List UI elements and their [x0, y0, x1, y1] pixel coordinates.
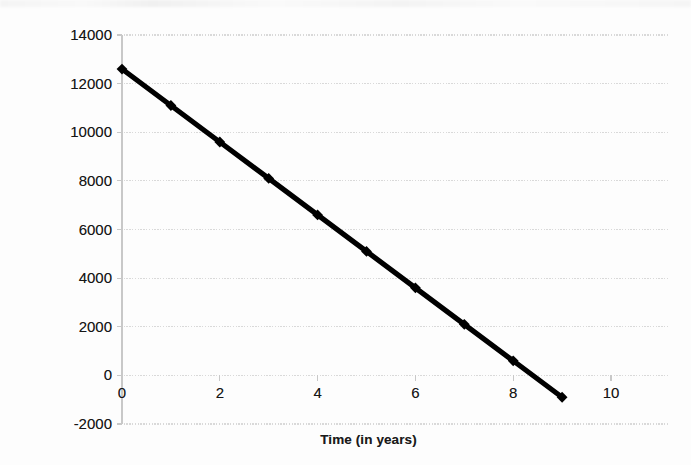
x-tick-label: 0	[102, 384, 142, 401]
y-tick-label: 2000	[38, 318, 112, 335]
x-tick-label: 4	[298, 384, 338, 401]
y-tick-label: 8000	[38, 172, 112, 189]
y-tick-label: -2000	[38, 415, 112, 432]
data-series-line	[122, 69, 562, 397]
chart-figure: Value of Car Time (in years) -2000020004…	[0, 0, 691, 465]
x-tick-label: 10	[591, 384, 631, 401]
y-tick-label: 4000	[38, 269, 112, 286]
x-axis-title: Time (in years)	[0, 432, 691, 447]
y-tick-label: 6000	[38, 221, 112, 238]
y-tick-label: 12000	[38, 75, 112, 92]
y-tick-label: 0	[38, 366, 112, 383]
x-tick-label: 6	[395, 384, 435, 401]
x-tick-label: 2	[200, 384, 240, 401]
y-tick-label: 10000	[38, 123, 112, 140]
y-tick-label: 14000	[38, 26, 112, 43]
x-tick-label: 8	[493, 384, 533, 401]
